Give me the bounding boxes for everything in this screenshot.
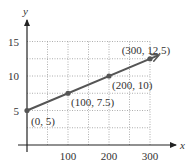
point-label: (0, 5) xyxy=(31,115,55,128)
line-chart: xy 10020030051015 (0, 5)(100, 7.5)(200, … xyxy=(0,0,189,168)
point-label: (100, 7.5) xyxy=(71,96,114,109)
y-tick-label: 10 xyxy=(8,70,20,82)
x-tick-label: 300 xyxy=(142,150,159,162)
y-axis-label: y xyxy=(22,5,28,17)
data-point xyxy=(24,108,29,113)
data-point xyxy=(147,56,152,61)
data-point xyxy=(106,73,111,78)
point-label: (300, 12.5) xyxy=(122,44,171,57)
x-tick-label: 200 xyxy=(101,150,118,162)
y-tick-label: 5 xyxy=(14,105,20,117)
y-tick-label: 15 xyxy=(8,36,20,48)
x-axis-label: x xyxy=(179,139,185,151)
grid xyxy=(27,42,150,146)
point-label: (200, 10) xyxy=(112,79,153,92)
data-point xyxy=(65,91,70,96)
x-tick-label: 100 xyxy=(60,150,77,162)
